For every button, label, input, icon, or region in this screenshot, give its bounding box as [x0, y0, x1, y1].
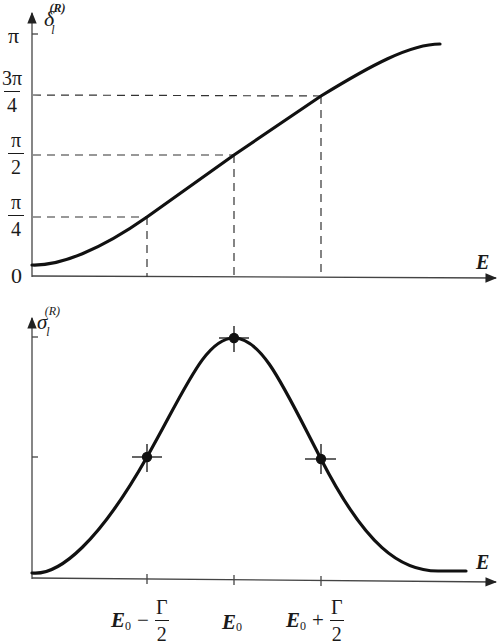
- frac-den: 4: [7, 95, 17, 115]
- ytick-3pi-over-4: 3π 4: [2, 68, 22, 115]
- delta-superscript: (R): [50, 1, 66, 15]
- xtick-main: E: [286, 610, 300, 631]
- frac-num: π: [11, 130, 21, 150]
- dashed-guides: [33, 95, 321, 278]
- top-x-axis: [32, 276, 496, 278]
- xtick-frac: Γ 2: [330, 597, 344, 644]
- bottom-x-axis-label: E: [476, 552, 489, 572]
- ytick-pi: π: [8, 25, 19, 47]
- frac-bar: [4, 91, 20, 92]
- top-x-axis-label: E: [476, 252, 489, 272]
- xtick-frac: Γ 2: [155, 597, 169, 644]
- xtick-sub: 0: [300, 620, 306, 632]
- ytick-pi-over-2: π 2: [8, 130, 24, 177]
- frac-num: 3π: [2, 68, 22, 88]
- ytick-pi-over-4: π 4: [8, 192, 24, 239]
- frac-den: 2: [332, 624, 342, 644]
- sigma-subscript: l: [46, 325, 49, 339]
- xtick-e0: E0: [222, 611, 242, 633]
- marked-points: [132, 326, 336, 474]
- xtick-op: −: [137, 610, 149, 631]
- frac-num: Γ: [331, 597, 343, 617]
- sigma-superscript: (R): [45, 304, 60, 318]
- xtick-main: E: [222, 612, 236, 633]
- frac-bar: [8, 153, 24, 154]
- bottom-y-axis-label: σl(R): [37, 311, 66, 336]
- xtick-sub: 0: [125, 620, 131, 632]
- bottom-x-axis: [32, 578, 496, 582]
- xtick-e0-plus-half-gamma: E0 + Γ 2: [286, 597, 344, 644]
- ytick-zero: 0: [11, 265, 22, 287]
- top-y-axis-label: δl(R): [44, 8, 74, 34]
- frac-bar: [155, 620, 169, 621]
- frac-den: 4: [11, 219, 21, 239]
- figure-canvas: [0, 0, 504, 644]
- frac-num: π: [11, 192, 21, 212]
- delta-subscript: l: [51, 23, 54, 37]
- bottom-panel: [32, 318, 496, 586]
- xtick-main: E: [111, 610, 125, 631]
- xtick-sub: 0: [236, 621, 242, 633]
- top-panel: [32, 13, 496, 278]
- frac-bar: [8, 215, 24, 216]
- frac-num: Γ: [156, 597, 168, 617]
- frac-den: 2: [11, 157, 21, 177]
- frac-den: 2: [157, 624, 167, 644]
- xtick-op: +: [312, 610, 324, 631]
- frac-bar: [330, 620, 344, 621]
- cross-section-curve: [32, 338, 466, 573]
- xtick-e0-minus-half-gamma: E0 − Γ 2: [111, 597, 169, 644]
